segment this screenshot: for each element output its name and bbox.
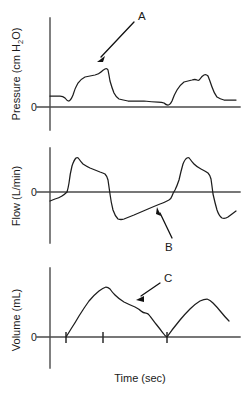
flow-panel: B 0 Flow (L/min) xyxy=(10,148,240,253)
volume-zero-label: 0 xyxy=(31,331,37,343)
waveform-canvas: A 0 Pressure (cm H2O) B 0 Flow (L/min) xyxy=(0,0,246,395)
pressure-axis-title-main: Pressure (cm H xyxy=(10,44,22,120)
annotation-c-label: C xyxy=(164,272,172,284)
ventilator-waveform-figure: A 0 Pressure (cm H2O) B 0 Flow (L/min) xyxy=(0,0,246,395)
pressure-axis-title-tail: O) xyxy=(10,28,22,40)
pressure-axis-title: Pressure (cm H2O) xyxy=(10,28,25,121)
annotation-a-leader xyxy=(101,22,134,57)
annotation-a-label: A xyxy=(138,10,146,22)
annotation-a: A xyxy=(97,10,146,62)
annotation-c-arrowhead xyxy=(136,296,144,302)
pressure-trace xyxy=(50,69,236,105)
x-axis-title: Time (sec) xyxy=(114,372,166,384)
annotation-b-label: B xyxy=(165,241,173,253)
annotation-b-leader xyxy=(160,213,172,238)
volume-trace xyxy=(66,287,229,337)
annotation-c-leader xyxy=(141,283,160,296)
pressure-zero-label: 0 xyxy=(31,101,37,113)
flow-zero-label: 0 xyxy=(31,186,37,198)
annotation-b-arrowhead xyxy=(156,207,161,216)
annotation-c: C xyxy=(136,272,172,302)
flow-trace xyxy=(50,158,236,220)
volume-axis-title: Volume (mL) xyxy=(10,289,22,351)
flow-axis-title: Flow (L/min) xyxy=(10,166,22,227)
annotation-b: B xyxy=(156,207,173,253)
volume-panel: C 0 Volume (mL) Time (sec) xyxy=(10,268,240,384)
pressure-panel: A 0 Pressure (cm H2O) xyxy=(10,10,240,130)
